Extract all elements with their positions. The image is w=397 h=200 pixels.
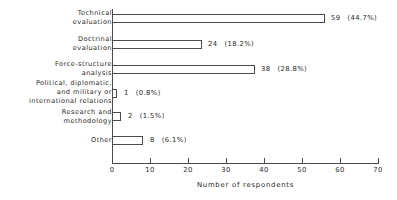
category-label-line: Technical xyxy=(73,9,112,18)
x-axis-tick-label: 30 xyxy=(221,166,230,174)
category-label-technical-evaluation: Technical evaluation xyxy=(73,9,112,27)
x-axis-tick-label: 40 xyxy=(259,166,268,174)
x-axis-tick-label: 70 xyxy=(373,166,382,174)
category-label-line: Doctrinal xyxy=(73,35,112,44)
bar-research-and-methodology xyxy=(112,112,121,121)
x-axis-tick xyxy=(112,158,113,163)
bar-value-doctrinal-evaluation: 24(18.2%) xyxy=(208,40,254,49)
x-axis-title: Number of respondents xyxy=(112,181,379,189)
category-label-line: evaluation xyxy=(73,44,112,53)
x-axis-tick xyxy=(264,158,265,163)
bar-chart: Technical evaluation Doctrinal evaluatio… xyxy=(0,0,397,200)
x-axis-tick xyxy=(226,158,227,163)
bar-value-political-diplomatic-military-international-relations: 1(0.8%) xyxy=(124,89,161,98)
x-axis-tick-label: 20 xyxy=(183,166,192,174)
x-axis-tick xyxy=(150,158,151,163)
x-axis-tick-label: 0 xyxy=(110,166,115,174)
bar-value-percent: (0.8%) xyxy=(136,89,161,97)
bar-value-percent: (44.7%) xyxy=(347,14,377,22)
bar-value-number: 59 xyxy=(331,14,340,22)
x-axis-tick xyxy=(378,158,379,163)
bar-technical-evaluation xyxy=(112,14,325,23)
category-label-political-diplomatic-military-international-relations: Political, diplomatic, and military or i… xyxy=(29,79,112,107)
category-label-line: and military or xyxy=(29,88,112,97)
x-axis-tick-label: 60 xyxy=(335,166,344,174)
category-label-line: international relations xyxy=(29,97,112,106)
x-axis-tick xyxy=(188,158,189,163)
category-label-line: Other xyxy=(91,136,112,145)
y-axis-line xyxy=(112,9,113,164)
x-axis-tick xyxy=(302,158,303,163)
bar-value-number: 2 xyxy=(128,112,133,120)
bar-value-percent: (18.2%) xyxy=(224,40,254,48)
category-label-line: evaluation xyxy=(73,18,112,27)
bar-value-number: 38 xyxy=(261,65,270,73)
bar-doctrinal-evaluation xyxy=(112,40,202,49)
category-label-line: Political, diplomatic, xyxy=(29,79,112,88)
x-axis-line xyxy=(112,163,379,164)
category-label-research-and-methodology: Research and methodology xyxy=(62,108,112,126)
bar-value-research-and-methodology: 2(1.5%) xyxy=(128,112,165,121)
bar-value-percent: (28.8%) xyxy=(277,65,307,73)
bar-force-structure-analysis xyxy=(112,65,255,74)
bar-value-other: 8(6.1%) xyxy=(150,136,187,145)
x-axis-tick xyxy=(340,158,341,163)
category-label-line: analysis xyxy=(55,69,112,78)
category-label-line: methodology xyxy=(62,117,112,126)
category-label-line: Research and xyxy=(62,108,112,117)
bar-value-technical-evaluation: 59(44.7%) xyxy=(331,14,377,23)
bar-value-number: 24 xyxy=(208,40,217,48)
x-axis-tick-label: 50 xyxy=(297,166,306,174)
bar-value-number: 1 xyxy=(124,89,129,97)
bar-value-force-structure-analysis: 38(28.8%) xyxy=(261,65,307,74)
category-label-other: Other xyxy=(91,136,112,145)
category-label-force-structure-analysis: Force-structure analysis xyxy=(55,60,112,78)
x-axis-tick-label: 10 xyxy=(145,166,154,174)
bar-value-percent: (6.1%) xyxy=(162,136,187,144)
bar-value-number: 8 xyxy=(150,136,155,144)
bar-value-percent: (1.5%) xyxy=(140,112,165,120)
category-label-doctrinal-evaluation: Doctrinal evaluation xyxy=(73,35,112,53)
category-label-line: Force-structure xyxy=(55,60,112,69)
bar-other xyxy=(112,136,143,145)
